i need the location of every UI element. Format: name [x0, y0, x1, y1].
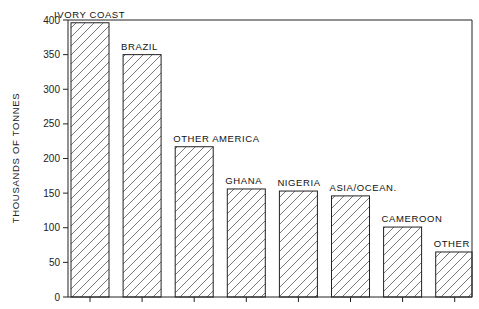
bar-cameroon: [384, 227, 422, 297]
bar-label: NIGERIA: [277, 177, 320, 188]
bar-label: ASIA/OCEAN.: [330, 182, 397, 193]
bar-label: OTHER AMERICA: [173, 133, 260, 144]
bar-ghana: [227, 189, 265, 297]
y-tick-label: 0: [54, 292, 60, 303]
y-tick-label: 250: [43, 118, 60, 129]
y-tick-label: 50: [49, 257, 61, 268]
y-axis-label: THOUSANDS OF TONNES: [10, 93, 21, 224]
bar-label: BRAZIL: [121, 41, 158, 52]
bar-nigeria: [279, 191, 317, 297]
y-axis: 050100150200250300350400: [43, 15, 68, 303]
bar-label: GHANA: [225, 175, 262, 186]
bar-other-america: [175, 147, 213, 297]
bar-other: [436, 252, 472, 297]
bar-asia-ocean: [332, 196, 370, 297]
y-tick-label: 200: [43, 153, 60, 164]
bar-ivory-coast: [71, 23, 109, 297]
bars: IVORY COASTBRAZILOTHER AMERICAGHANANIGER…: [54, 9, 472, 297]
bar-label: OTHER: [434, 238, 470, 249]
bar-label: CAMEROON: [382, 213, 443, 224]
y-tick-label: 150: [43, 188, 60, 199]
bar-chart: 050100150200250300350400 IVORY COASTBRAZ…: [0, 0, 479, 309]
bar-label: IVORY COAST: [54, 9, 125, 20]
x-axis: [68, 297, 472, 302]
y-tick-label: 100: [43, 222, 60, 233]
y-tick-label: 350: [43, 49, 60, 60]
y-tick-label: 300: [43, 84, 60, 95]
bar-brazil: [123, 55, 161, 297]
